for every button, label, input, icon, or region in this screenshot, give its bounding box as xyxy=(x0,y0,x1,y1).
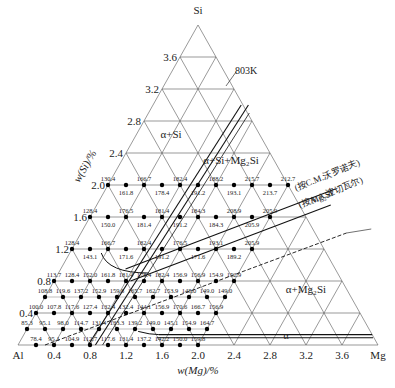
data-point xyxy=(97,295,101,299)
data-point-label: 142.2 xyxy=(155,335,170,342)
data-point xyxy=(250,215,254,219)
data-point-label: 95.1 xyxy=(39,319,50,326)
data-point-label: 156.9 xyxy=(191,271,206,278)
data-point-label: 153.9 xyxy=(164,287,179,294)
data-point-label: 149.0 xyxy=(200,287,215,294)
data-point-label: 152.0 xyxy=(83,271,98,278)
data-point xyxy=(142,343,146,347)
region-alpha: α xyxy=(283,330,289,341)
data-point xyxy=(250,247,254,251)
data-point-label: 98.0 xyxy=(57,319,68,326)
data-point-label: 149.0 xyxy=(146,319,161,326)
data-point xyxy=(214,247,218,251)
data-point xyxy=(178,215,182,219)
data-point xyxy=(43,327,47,331)
data-point-label: 178.4 xyxy=(155,189,170,196)
data-point xyxy=(52,279,56,283)
data-point-label: 176.5 xyxy=(173,239,188,246)
data-point xyxy=(151,327,155,331)
data-point-label: 171.6 xyxy=(119,253,134,260)
data-points: 130.4161.8166.7178.4182.4191.2188.2193.1… xyxy=(21,175,296,347)
data-point-label: 131.4 xyxy=(119,335,134,342)
data-point xyxy=(160,279,164,283)
data-point xyxy=(160,311,164,315)
vertex-si-label: Si xyxy=(193,4,202,16)
data-point xyxy=(196,183,200,187)
data-point xyxy=(223,295,227,299)
data-point xyxy=(115,295,119,299)
x-tick: 2.8 xyxy=(263,349,277,361)
x-axis-label: w(Mg)/% xyxy=(177,364,219,377)
data-point-label: 205.9 xyxy=(245,239,260,246)
data-point xyxy=(250,183,254,187)
data-point xyxy=(70,311,74,315)
data-point-label: 191.2 xyxy=(155,253,170,260)
data-point xyxy=(178,311,182,315)
data-point xyxy=(52,343,56,347)
data-point-label: 159.8 xyxy=(191,335,206,342)
data-point xyxy=(106,311,110,315)
data-point-label: 182.4 xyxy=(155,271,170,278)
data-point-label: 114.7 xyxy=(74,319,89,326)
data-point-label: 171.6 xyxy=(191,253,206,260)
data-point xyxy=(25,327,29,331)
x-axis-ticks: 0.40.81.21.62.02.42.83.23.6 xyxy=(47,349,349,361)
y-tick: 0.8 xyxy=(37,275,51,287)
data-point xyxy=(142,247,146,251)
data-point-label: 154.9 xyxy=(182,319,197,326)
y-tick: 2.8 xyxy=(127,115,141,127)
data-point xyxy=(268,183,272,187)
vertex-al-label: Al xyxy=(13,349,24,361)
data-point xyxy=(214,183,218,187)
data-point-label: 205.9 xyxy=(263,207,278,214)
data-point-label: 150.0 xyxy=(101,221,116,228)
data-point-label: 128.4 xyxy=(65,271,80,278)
data-point xyxy=(88,311,92,315)
data-point xyxy=(187,295,191,299)
region-alpha-si-mg2si: α+Si+Mg₂Si xyxy=(203,154,259,166)
data-point xyxy=(106,215,110,219)
data-point xyxy=(124,215,128,219)
data-point xyxy=(196,215,200,219)
data-point-label: 165.7 xyxy=(128,287,143,294)
data-point xyxy=(106,279,110,283)
data-point-label: 188.2 xyxy=(209,175,224,182)
data-point-label: 181.4 xyxy=(155,207,170,214)
data-point-label: 193.1 xyxy=(227,189,242,196)
data-point-label: 132.4 xyxy=(119,303,134,310)
data-point-label: 189.2 xyxy=(227,253,242,260)
data-point xyxy=(61,327,65,331)
data-point xyxy=(106,183,110,187)
data-point-label: 117.6 xyxy=(65,303,80,310)
data-point-label: 166.7 xyxy=(191,303,206,310)
data-point-label: 95.1 xyxy=(48,335,59,342)
data-point xyxy=(268,215,272,219)
data-point-label: 170.6 xyxy=(173,303,188,310)
data-point-label: 119.6 xyxy=(56,287,71,294)
data-point-label: 143.1 xyxy=(83,253,98,260)
data-point-label: 127.4 xyxy=(83,303,98,310)
data-point-label: 184.3 xyxy=(209,221,224,228)
data-point-label: 182.4 xyxy=(173,175,188,182)
grid-line xyxy=(270,249,324,345)
data-point xyxy=(232,183,236,187)
data-point xyxy=(70,343,74,347)
data-point xyxy=(187,327,191,331)
data-point xyxy=(97,327,101,331)
data-point xyxy=(178,247,182,251)
data-point-label: 178.4 xyxy=(137,271,152,278)
data-point xyxy=(196,311,200,315)
data-point-label: 78.4 xyxy=(30,335,42,342)
data-point xyxy=(133,295,137,299)
data-point-label: 156.9 xyxy=(173,271,188,278)
data-point-label: 161.8 xyxy=(101,271,116,278)
data-point-label: 181.4 xyxy=(119,271,134,278)
data-point-label: 159.8 xyxy=(110,287,125,294)
y-tick: 1.2 xyxy=(55,243,69,255)
data-point-label: 150.0 xyxy=(173,335,188,342)
data-point xyxy=(214,279,218,283)
data-point-label: 137.2 xyxy=(74,287,89,294)
data-point xyxy=(88,247,92,251)
y-tick: 2.4 xyxy=(109,147,123,159)
data-point xyxy=(196,247,200,251)
